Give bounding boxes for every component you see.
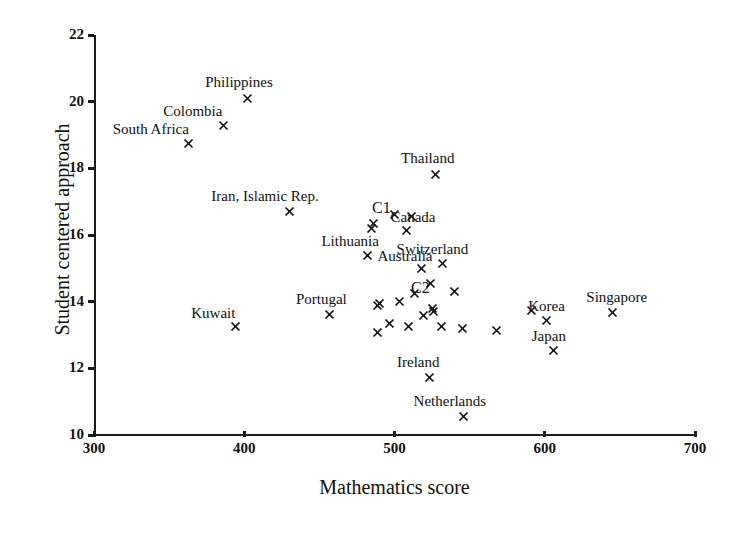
- x-tick-label: 300: [64, 440, 124, 456]
- point-label: Colombia: [163, 103, 222, 119]
- data-point-marker: [401, 225, 412, 236]
- data-point-marker: [491, 325, 502, 336]
- data-point-marker: [394, 296, 405, 307]
- point-label: Portugal: [296, 291, 347, 307]
- y-tick-mark: [88, 234, 94, 237]
- x-tick-mark: [393, 431, 396, 437]
- y-axis-title: Student centered approach: [51, 80, 74, 380]
- x-tick-mark: [93, 431, 96, 437]
- data-point-marker: [368, 218, 379, 229]
- y-tick-mark: [88, 100, 94, 103]
- data-point-marker: [457, 323, 468, 334]
- data-point-marker: [372, 300, 383, 311]
- point-label: Thailand: [401, 150, 454, 166]
- data-point-marker: [424, 372, 435, 383]
- point-label: Netherlands: [414, 393, 486, 409]
- data-point-marker: [428, 306, 439, 317]
- point-label: Kuwait: [191, 305, 235, 321]
- data-point-marker: [230, 321, 241, 332]
- data-point-marker: [218, 120, 229, 131]
- point-label: South Africa: [113, 121, 189, 137]
- point-label: Australia: [378, 248, 433, 264]
- cluster-annotation-c2: C2: [411, 280, 430, 296]
- x-tick-label: 600: [515, 440, 575, 456]
- x-tick-mark: [694, 431, 697, 437]
- data-point-marker: [324, 309, 335, 320]
- data-point-marker: [284, 206, 295, 217]
- data-point-marker: [607, 307, 618, 318]
- data-point-marker: [183, 138, 194, 149]
- data-point-marker: [541, 315, 552, 326]
- scatter-chart: 10121416182022 300400500600700 Student c…: [0, 0, 733, 536]
- point-label: Canada: [391, 209, 436, 225]
- data-point-marker: [416, 263, 427, 274]
- data-point-marker: [362, 250, 373, 261]
- y-tick-mark: [88, 167, 94, 170]
- data-point-marker: [436, 321, 447, 332]
- point-label: Singapore: [586, 289, 647, 305]
- data-point-marker: [449, 286, 460, 297]
- data-point-marker: [372, 327, 383, 338]
- y-tick-mark: [88, 300, 94, 303]
- point-label: Japan: [532, 328, 566, 344]
- y-tick-mark: [88, 34, 94, 37]
- data-point-marker: [384, 318, 395, 329]
- x-tick-mark: [243, 431, 246, 437]
- y-axis-line: [94, 35, 96, 436]
- x-tick-label: 700: [665, 440, 725, 456]
- data-point-marker: [437, 258, 448, 269]
- x-tick-label: 500: [365, 440, 425, 456]
- point-label: Philippines: [205, 74, 273, 90]
- point-label: Iran, Islamic Rep.: [211, 188, 318, 204]
- data-point-marker: [548, 345, 559, 356]
- data-point-marker: [242, 93, 253, 104]
- data-point-marker: [403, 321, 414, 332]
- x-axis-title: Mathematics score: [94, 476, 695, 499]
- data-point-marker: [430, 169, 441, 180]
- point-label: Lithuania: [321, 233, 378, 249]
- data-point-marker: [458, 411, 469, 422]
- y-tick-label: 22: [50, 27, 84, 42]
- y-tick-mark: [88, 367, 94, 370]
- cluster-annotation-c1: C1: [372, 200, 391, 216]
- x-tick-label: 400: [214, 440, 274, 456]
- point-label: Korea: [528, 298, 565, 314]
- x-tick-mark: [543, 431, 546, 437]
- point-label: Ireland: [397, 354, 439, 370]
- y-tick-label-wrap: 22: [44, 27, 84, 43]
